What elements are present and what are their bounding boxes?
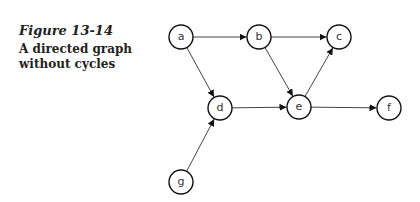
edge-e-to-c [305,48,333,97]
node-g: g [169,170,193,194]
node-label: a [178,30,185,43]
node-label: b [256,30,263,43]
nodes-layer: abcdefg [169,25,401,194]
node-label: d [217,101,224,114]
node-label: c [336,30,342,43]
edge-b-to-e [265,47,293,96]
node-c: c [327,25,351,49]
edge-e-to-f [311,107,377,108]
edge-g-to-d [187,119,215,171]
node-b: b [247,25,271,49]
node-e: e [287,95,311,119]
node-a: a [169,25,193,49]
edge-a-to-d [187,48,214,98]
node-f: f [377,96,401,120]
node-d: d [208,96,232,120]
node-label: g [178,175,185,188]
directed-graph: abcdefg [0,0,420,202]
node-label: e [296,100,303,113]
edge-d-to-e [232,107,287,108]
